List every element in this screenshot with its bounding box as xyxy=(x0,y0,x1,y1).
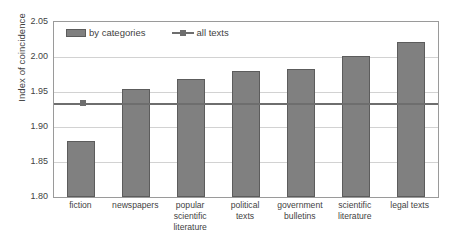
legend-label-by-categories: by categories xyxy=(89,27,146,38)
bar-slot xyxy=(219,22,274,197)
x-axis-tick-label: newspapers xyxy=(108,200,163,233)
y-axis-tick-labels: 2.052.001.951.901.851.80 xyxy=(22,0,48,250)
y-axis-tick-label: 1.85 xyxy=(30,156,48,166)
y-axis-tick-label: 2.00 xyxy=(30,51,48,61)
bar xyxy=(177,79,205,197)
bar xyxy=(232,71,260,197)
bar xyxy=(397,42,425,197)
plot-area xyxy=(53,21,439,198)
x-axis-tick-label: popularscientificliterature xyxy=(163,200,218,233)
bar-slot xyxy=(109,22,164,197)
x-axis-tick-label: legal texts xyxy=(382,200,437,233)
y-axis-tick-label: 2.05 xyxy=(30,16,48,26)
bar-series xyxy=(54,22,438,197)
line-marker-swatch-icon xyxy=(172,29,194,37)
x-axis-tick-label: politicaltexts xyxy=(218,200,273,233)
y-axis-tick-label: 1.95 xyxy=(30,86,48,96)
all-texts-reference-line xyxy=(54,103,438,105)
legend-item-all-texts: all texts xyxy=(172,27,229,38)
bar xyxy=(342,56,370,197)
bar-swatch-icon xyxy=(66,29,86,37)
x-axis-tick-labels: fictionnewspaperspopularscientificlitera… xyxy=(53,200,437,233)
y-axis-tick-label: 1.90 xyxy=(30,121,48,131)
legend-label-all-texts: all texts xyxy=(197,27,229,38)
bar-slot xyxy=(383,22,438,197)
x-axis-tick-label: scientificliterature xyxy=(327,200,382,233)
x-axis-tick-label: governmentbulletins xyxy=(272,200,327,233)
bar xyxy=(122,89,150,197)
all-texts-marker xyxy=(80,100,86,106)
bar xyxy=(67,141,95,197)
bar-slot xyxy=(164,22,219,197)
y-axis-tick-label: 1.80 xyxy=(30,191,48,201)
bar xyxy=(287,69,315,197)
legend-item-by-categories: by categories xyxy=(66,27,146,38)
x-axis-tick-label: fiction xyxy=(53,200,108,233)
bar-slot xyxy=(328,22,383,197)
legend: by categories all texts xyxy=(66,27,229,38)
bar-slot xyxy=(54,22,109,197)
bar-slot xyxy=(273,22,328,197)
chart-container: Index of coincidence 2.052.001.951.901.8… xyxy=(0,0,457,250)
